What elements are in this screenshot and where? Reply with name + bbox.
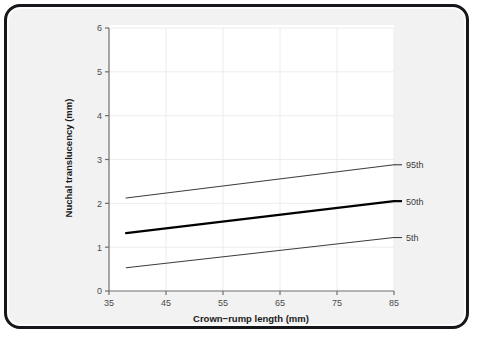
x-tick-label: 65: [275, 298, 285, 308]
series-labels-group: 95th50th5th: [406, 160, 424, 243]
y-tick-label: 0: [97, 286, 102, 296]
series-label-50th: 50th: [406, 197, 424, 207]
y-tick-label: 2: [97, 199, 102, 209]
plot-panel: [109, 25, 394, 291]
y-tick-label: 3: [97, 155, 102, 165]
x-tick-label: 45: [161, 298, 171, 308]
line-chart: 0123456 354555657585 95th50th5th Crown−r…: [0, 0, 481, 341]
x-tick-label: 55: [218, 298, 228, 308]
x-axis-title: Crown−rump length (mm): [193, 313, 309, 324]
x-tick-label: 75: [332, 298, 342, 308]
y-tick-label: 1: [97, 243, 102, 253]
x-tick-label: 85: [389, 298, 399, 308]
x-tick-label: 35: [104, 298, 114, 308]
chart-container: 0123456 354555657585 95th50th5th Crown−r…: [0, 0, 481, 341]
plot-background: [109, 25, 394, 291]
y-tick-label: 4: [97, 111, 102, 121]
y-axis-ticks: 0123456: [97, 23, 109, 296]
y-tick-label: 5: [97, 67, 102, 77]
x-axis-ticks: 354555657585: [104, 291, 399, 308]
y-tick-label: 6: [97, 23, 102, 33]
y-axis-title: Nuchal translucency (mm): [63, 99, 74, 218]
series-label-95th: 95th: [406, 160, 424, 170]
series-label-5th: 5th: [406, 233, 419, 243]
figure-root: 0123456 354555657585 95th50th5th Crown−r…: [0, 0, 481, 341]
